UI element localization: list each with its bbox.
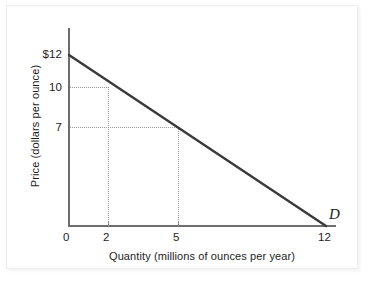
x-tick-label-12: 12 bbox=[318, 231, 331, 243]
demand-curve-label: D bbox=[329, 206, 340, 223]
x-tick-label-5: 5 bbox=[173, 231, 180, 243]
y-tick-label-10: 10 bbox=[49, 81, 62, 93]
x-tick-label-0: 0 bbox=[63, 231, 70, 243]
demand-curve-chart: D $12 10 7 0 2 5 12 Quantity (millions o… bbox=[0, 0, 370, 281]
x-tick-label-2: 2 bbox=[103, 231, 110, 243]
figure-frame: D $12 10 7 0 2 5 12 Quantity (millions o… bbox=[0, 0, 370, 281]
y-tick-label-12: $12 bbox=[43, 48, 63, 60]
y-tick-label-7: 7 bbox=[56, 121, 63, 133]
demand-curve-line bbox=[0, 0, 370, 281]
y-axis-title: Price (dollars per ounce) bbox=[29, 46, 41, 206]
x-axis-title: Quantity (millions of ounces per year) bbox=[68, 250, 336, 262]
